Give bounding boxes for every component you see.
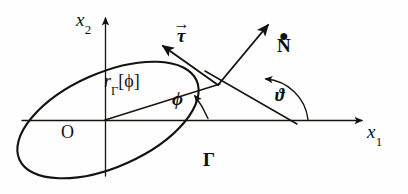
x1-axis-label: x1 [367, 122, 382, 146]
x2-axis-label-base: x [76, 9, 84, 30]
dot-accent-icon: ● [279, 28, 289, 44]
ndot-vector-label: ●N [277, 36, 291, 55]
phi-angle-arc [195, 96, 208, 119]
tau-overset: →τ [177, 26, 185, 45]
x1-axis-label-subscript: 1 [376, 134, 382, 149]
vector-arrow-accent-icon: → [173, 16, 189, 32]
theta-angle-label: ϑ [275, 86, 285, 104]
origin-label: O [61, 123, 74, 141]
ndot-overset: ●N [277, 36, 291, 55]
theta-angle-arc [266, 79, 308, 120]
x1-axis-label-base: x [367, 121, 375, 142]
radius-label-argument: [ϕ] [118, 71, 139, 91]
gamma-curve-label: Γ [203, 150, 215, 169]
radius-label: rΓ[ϕ] [104, 72, 140, 94]
x2-axis-label-subscript: 2 [85, 22, 91, 37]
tangent-vector-label: →τ [177, 26, 185, 45]
phi-angle-label: ϕ [172, 89, 183, 108]
radius-label-subscript: Γ [111, 84, 118, 98]
ndot-vector-arrow [218, 25, 268, 85]
x2-axis-label: x2 [76, 10, 91, 34]
tangent-vector-arrow [163, 46, 218, 85]
radius-label-base: r [104, 71, 111, 91]
figure-container: x2 x1 O Γ rΓ[ϕ] ϕ ϑ →τ ●N [0, 0, 408, 194]
